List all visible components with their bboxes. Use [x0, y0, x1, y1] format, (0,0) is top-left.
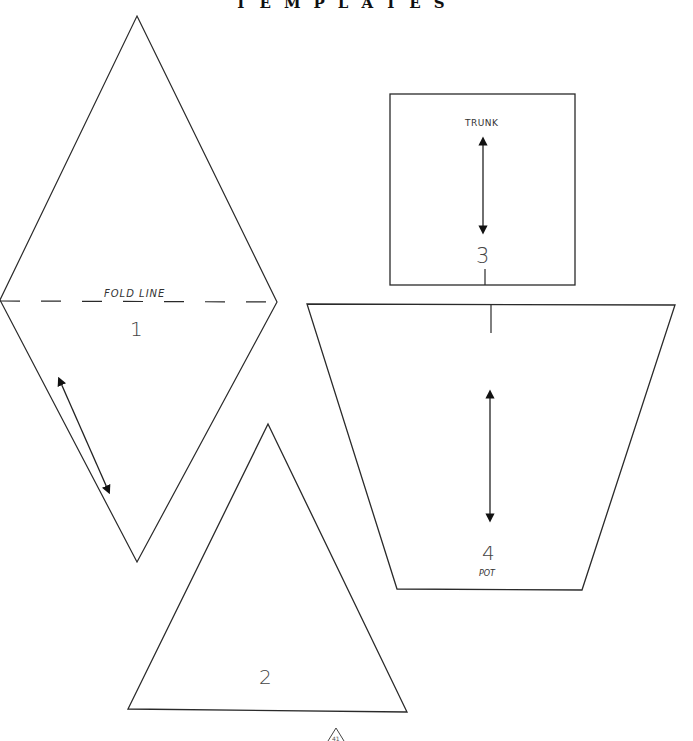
fold-line-label: FOLD LINE	[104, 288, 165, 299]
pot-label: POT	[479, 569, 496, 578]
template-4-number: 4	[482, 541, 495, 565]
page-number-badge: 41	[328, 728, 344, 741]
template-4-pot: 4 POT	[307, 304, 675, 590]
template-3-number: 3	[476, 244, 489, 268]
template-3-trunk: TRUNK 3	[390, 94, 575, 285]
template-1-number: 1	[130, 317, 143, 341]
trunk-label: TRUNK	[464, 118, 499, 128]
grain-arrow-icon	[60, 381, 108, 490]
template-2-triangle: 2	[128, 424, 407, 712]
template-2-number: 2	[259, 665, 272, 689]
fold-line	[0, 301, 277, 302]
template-1-diamond: FOLD LINE 1	[0, 16, 277, 562]
page-number: 41	[332, 735, 340, 741]
